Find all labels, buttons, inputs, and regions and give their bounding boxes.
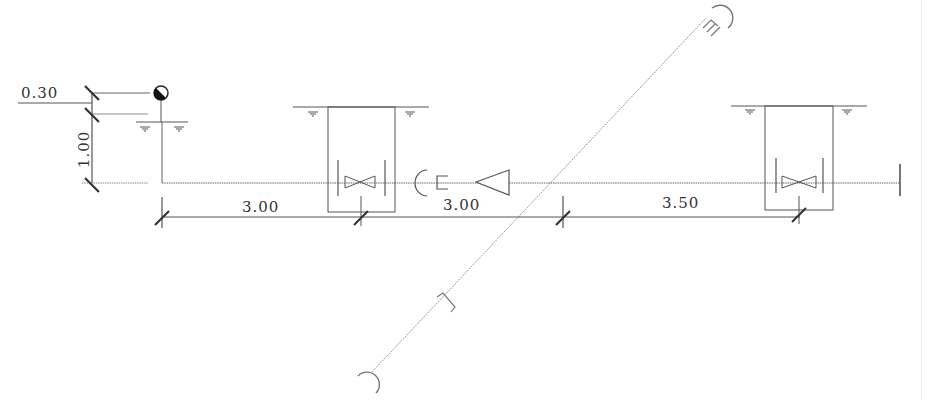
water-level-marker-icon [308, 112, 318, 116]
dim-label-segment-3: 3.50 [662, 194, 699, 212]
dim-label-segment-1: 3.00 [242, 198, 279, 216]
dim-label-0-30: 0.30 [21, 84, 58, 102]
dim-label-1-00: 1.00 [75, 131, 93, 168]
flange-mark-icon [437, 293, 455, 312]
gate-valve-icon [782, 176, 816, 188]
valve-chamber-2 [731, 106, 867, 224]
valve-chamber-1 [293, 107, 429, 226]
gate-valve-icon [345, 176, 375, 188]
half-filled-circle-icon [154, 86, 168, 122]
bottom-arc-icon [358, 372, 379, 393]
water-level-marker-icon [842, 110, 852, 114]
water-level-marker-icon [745, 110, 755, 114]
water-level-marker-icon [174, 127, 184, 131]
drawing-canvas: 0.30 1.00 [0, 0, 930, 413]
dim-label-segment-2: 3.00 [443, 196, 480, 214]
reducer-triangle-icon [476, 170, 509, 195]
water-level-marker-icon [405, 112, 415, 116]
water-level-marker-icon [140, 127, 150, 131]
